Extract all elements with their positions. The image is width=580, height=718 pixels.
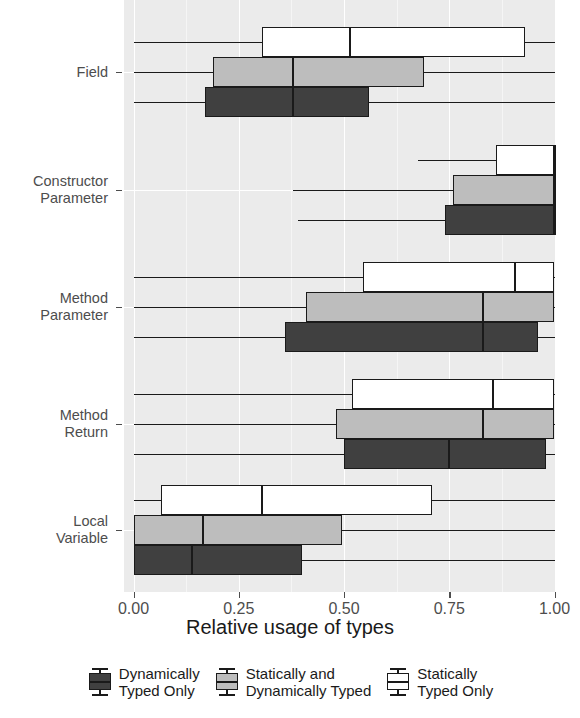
legend-swatch-icon xyxy=(385,667,411,697)
y-axis: FieldConstructorParameterMethodParameter… xyxy=(0,0,124,592)
legend-item[interactable]: Dynamically Typed Only xyxy=(87,665,200,699)
y-axis-tick-label: Field xyxy=(0,64,108,81)
boxplot-chart: FieldConstructorParameterMethodParameter… xyxy=(0,0,580,718)
legend-item[interactable]: Statically and Dynamically Typed xyxy=(214,665,372,699)
x-axis-tick xyxy=(555,592,556,598)
legend-label: Dynamically Typed Only xyxy=(119,665,200,699)
y-axis-tick-label-line: Return xyxy=(0,424,108,441)
y-axis-tick-label-line: Variable xyxy=(0,530,108,547)
x-axis-title: Relative usage of types xyxy=(0,616,580,639)
legend: Dynamically Typed OnlyStatically and Dyn… xyxy=(0,665,580,718)
x-axis-tick xyxy=(134,592,135,598)
boxplot-box xyxy=(124,0,556,592)
legend-swatch-icon xyxy=(214,667,240,697)
y-axis-tick-label-line: Local xyxy=(0,513,108,530)
y-axis-tick-label-line: Parameter xyxy=(0,190,108,207)
y-axis-tick xyxy=(116,530,122,531)
y-axis-tick xyxy=(116,190,122,191)
y-axis-tick-label-line: Constructor xyxy=(0,173,108,190)
y-axis-tick xyxy=(116,72,122,73)
legend-swatch-icon xyxy=(87,667,113,697)
y-axis-tick-label: ConstructorParameter xyxy=(0,173,108,207)
y-axis-tick-label-line: Field xyxy=(0,64,108,81)
y-axis-tick-label-line: Method xyxy=(0,290,108,307)
y-axis-tick-label-line: Method xyxy=(0,407,108,424)
legend-item[interactable]: Statically Typed Only xyxy=(385,665,493,699)
y-axis-tick-label-line: Parameter xyxy=(0,307,108,324)
y-axis-tick-label: MethodReturn xyxy=(0,407,108,441)
boxplot-median xyxy=(261,485,263,515)
x-axis-tick xyxy=(344,592,345,598)
y-axis-tick xyxy=(116,307,122,308)
x-axis-tick xyxy=(239,592,240,598)
x-axis-tick xyxy=(449,592,450,598)
legend-label: Statically Typed Only xyxy=(417,665,493,699)
legend-label: Statically and Dynamically Typed xyxy=(246,665,372,699)
boxplot-rect xyxy=(161,485,433,515)
y-axis-tick xyxy=(116,424,122,425)
y-axis-tick-label: LocalVariable xyxy=(0,513,108,547)
y-axis-tick-label: MethodParameter xyxy=(0,290,108,324)
plot-panel xyxy=(124,0,556,592)
